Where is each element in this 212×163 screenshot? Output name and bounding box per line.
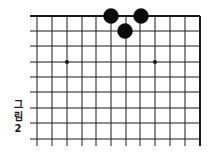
board-grid <box>30 16 200 146</box>
figure-caption: 그 림 2 <box>10 99 26 135</box>
black-stone-icon <box>118 24 133 39</box>
black-stone-icon <box>104 9 119 24</box>
stones <box>104 9 149 39</box>
black-stone-icon <box>134 9 149 24</box>
caption-number: 2 <box>10 123 26 135</box>
caption-char-1: 그 <box>10 99 26 111</box>
go-board <box>0 0 212 163</box>
caption-char-2: 림 <box>10 111 26 123</box>
star-point-icon <box>153 60 157 64</box>
star-point-icon <box>65 60 69 64</box>
